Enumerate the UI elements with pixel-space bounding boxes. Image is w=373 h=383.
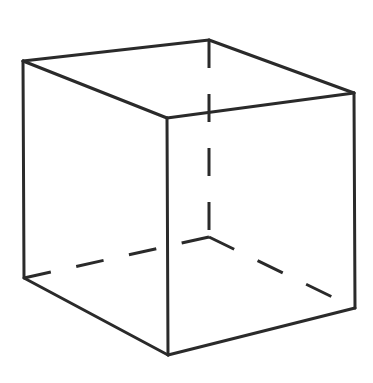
hidden-edge-bottom_back_hidden-bottom_left: [24, 237, 209, 278]
diagram-canvas: [0, 0, 373, 383]
visible-edges: [23, 40, 355, 355]
edge-top_front-top_left: [23, 61, 167, 118]
hidden-edge-bottom_back_hidden-bottom_right: [209, 237, 355, 308]
edge-top_right-top_front: [167, 93, 354, 118]
edge-bottom_front-bottom_right: [168, 308, 355, 355]
edge-top_right-bottom_right: [354, 93, 355, 308]
edge-top_left-bottom_left: [23, 61, 24, 278]
edge-top_front-bottom_front: [167, 118, 168, 355]
cube-wireframe: [0, 0, 373, 383]
edge-top_left-top_back: [23, 40, 209, 61]
edge-bottom_left-bottom_front: [24, 278, 168, 355]
edge-top_back-top_right: [209, 40, 354, 93]
